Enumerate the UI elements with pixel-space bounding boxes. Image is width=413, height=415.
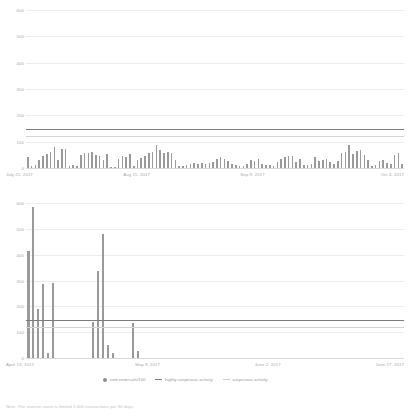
- chart-bar: [84, 153, 86, 168]
- chart-bar: [197, 164, 199, 168]
- chart-bar: [171, 153, 173, 168]
- chart-bar: [76, 166, 78, 168]
- chart-bar: [27, 251, 29, 358]
- chart-bar: [269, 165, 271, 168]
- chart-bar: [401, 164, 403, 168]
- legend-item[interactable]: highly suspicious activity: [155, 377, 212, 382]
- chart-bar: [295, 162, 297, 168]
- chart-bar: [163, 153, 165, 168]
- chart-bar: [72, 165, 74, 168]
- chart-bar: [27, 157, 29, 168]
- y-axis-tick-label: 500: [2, 34, 24, 39]
- chart-bar: [159, 150, 161, 168]
- chart-bar: [311, 164, 313, 168]
- chart-bar: [133, 166, 135, 168]
- chart-bar: [112, 353, 114, 358]
- chart-bar: [186, 165, 188, 168]
- dot-icon: [103, 378, 107, 382]
- y-axis-tick-label: 400: [2, 252, 24, 257]
- chart-bar: [65, 149, 67, 168]
- chart-bar: [61, 149, 63, 168]
- chart-bar: [50, 152, 52, 168]
- chart-bar: [57, 160, 59, 168]
- gridline: [26, 63, 404, 64]
- y-axis-tick-label: 300: [2, 87, 24, 92]
- chart-bar: [140, 158, 142, 168]
- chart-bar: [386, 163, 388, 168]
- chart-bar: [348, 145, 350, 168]
- chart-bar: [394, 155, 396, 168]
- chart-bar: [103, 160, 105, 168]
- chart-bar: [193, 163, 195, 168]
- chart-bar: [303, 165, 305, 168]
- chart-bar: [329, 162, 331, 168]
- y-axis-tick-label: 100: [2, 139, 24, 144]
- chart-bar: [182, 166, 184, 168]
- chart-bar: [231, 164, 233, 168]
- line-light-icon: [223, 379, 230, 380]
- legend-item-label: highly suspicious activity: [165, 377, 213, 382]
- chart-bar: [144, 156, 146, 168]
- chart-bar: [129, 154, 131, 168]
- y-axis-tick-label: 600: [2, 201, 24, 206]
- chart-bar: [201, 163, 203, 168]
- chart-bar: [175, 160, 177, 168]
- y-axis-tick-label: 100: [2, 330, 24, 335]
- chart-bar: [322, 160, 324, 168]
- legend-item[interactable]: sum reversals/100: [103, 377, 145, 382]
- y-axis-tick-label: 200: [2, 304, 24, 309]
- x-axis-tick-label: June 27, 2017: [375, 362, 404, 367]
- chart-bar: [258, 159, 260, 168]
- chart-bar: [246, 164, 248, 168]
- x-axis-tick-label: Aug 15, 2017: [123, 172, 150, 177]
- gridline: [26, 36, 404, 37]
- chart-bar: [367, 160, 369, 168]
- chart-bar: [205, 164, 207, 168]
- chart-bar: [132, 323, 134, 358]
- chart-legend: sum reversals/100highly suspicious activ…: [103, 377, 267, 382]
- chart-bar: [227, 161, 229, 168]
- chart-bar: [292, 156, 294, 168]
- chart-bar: [224, 159, 226, 168]
- x-axis-tick-label: April 13, 2017: [6, 362, 34, 367]
- chart-bar: [47, 353, 49, 358]
- chart-bar: [137, 351, 139, 358]
- threshold-line-suspicious: [26, 327, 404, 328]
- chart-bar: [216, 159, 218, 168]
- chart-bar: [69, 166, 71, 168]
- chart-bar: [178, 166, 180, 168]
- chart-bar: [42, 156, 44, 168]
- chart-bar: [299, 159, 301, 168]
- chart-bar: [250, 160, 252, 168]
- gridline: [26, 89, 404, 90]
- chart-bar: [261, 164, 263, 168]
- chart-bar: [37, 309, 39, 358]
- chart-bar: [333, 164, 335, 168]
- chart-bar: [42, 284, 44, 358]
- chart-bar: [398, 153, 400, 168]
- x-axis-tick-label: Sep 9, 2017: [240, 172, 264, 177]
- chart-bar: [212, 162, 214, 168]
- chart-bar: [364, 155, 366, 168]
- chart-page: 0100200300400500600 July 21, 2017Aug 15,…: [0, 0, 413, 415]
- chart-upper: [26, 10, 404, 168]
- chart-bar: [110, 167, 112, 168]
- chart-bar: [31, 166, 33, 168]
- chart-bar: [265, 165, 267, 168]
- chart-bar: [114, 167, 116, 168]
- chart-bar: [220, 157, 222, 168]
- chart-bar: [209, 163, 211, 168]
- x-axis-tick-label: May 9, 2017: [135, 362, 160, 367]
- gridline: [26, 229, 404, 230]
- chart-bar: [345, 152, 347, 168]
- chart-bar: [326, 159, 328, 168]
- legend-item[interactable]: suspicious activity: [223, 377, 268, 382]
- line-icon: [155, 379, 162, 380]
- legend-item-label: sum reversals/100: [110, 377, 146, 382]
- x-axis-tick-label: Oct 4, 2017: [381, 172, 404, 177]
- chart-bar: [91, 152, 93, 168]
- x-axis-tick-label: July 21, 2017: [6, 172, 33, 177]
- y-axis-tick-label: 300: [2, 278, 24, 283]
- chart-bar: [280, 159, 282, 168]
- chart-bar: [125, 157, 127, 168]
